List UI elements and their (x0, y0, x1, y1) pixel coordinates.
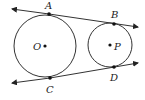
label-b: B (110, 9, 118, 20)
point-b (112, 22, 116, 26)
label-c: C (46, 84, 54, 95)
center-o-dot (43, 44, 46, 47)
label-a: A (44, 0, 52, 11)
geometry-diagram: A B C D O P (0, 0, 145, 100)
point-a (47, 12, 51, 16)
label-o: O (33, 41, 41, 52)
center-p-dot (108, 43, 111, 46)
point-c (48, 76, 52, 80)
tangent-line-cd (12, 78, 50, 83)
point-d (112, 65, 116, 69)
tangent-line-ab (12, 9, 49, 14)
label-p: P (113, 41, 121, 52)
label-d: D (109, 72, 118, 83)
